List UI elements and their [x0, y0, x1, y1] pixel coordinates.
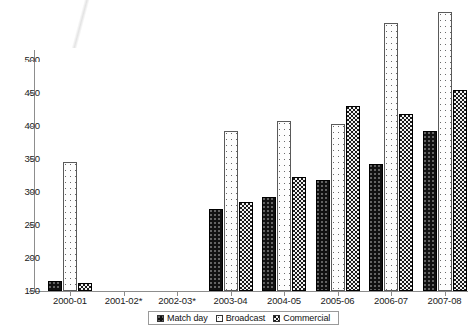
bar-chart: 150200250300350400450500 2000-012001-02*… [0, 0, 472, 332]
y-axis-tick-label: 300 [0, 187, 40, 197]
y-axis-tick-mark [29, 225, 34, 226]
bar-group [102, 0, 146, 291]
bar-group [209, 0, 253, 291]
legend-label-broadcast: Broadcast [226, 314, 266, 323]
legend-label-match-day: Match day [167, 314, 208, 323]
bar-group [262, 0, 306, 291]
x-axis-tick-label: 2005-06 [308, 296, 368, 306]
y-axis-tick-label: 400 [0, 121, 40, 131]
plot-area: 150200250300350400450500 2000-012001-02*… [34, 0, 468, 292]
x-axis-line [34, 291, 468, 292]
bar-group [423, 0, 467, 291]
y-axis-tick-label: 250 [0, 220, 40, 230]
x-axis-tick-label: 2000-01 [40, 296, 100, 306]
y-axis-tick-label: 350 [0, 154, 40, 164]
bar-match-day [209, 209, 223, 292]
bar-match-day [423, 131, 437, 291]
y-axis-tick-mark [29, 159, 34, 160]
x-axis-tick-label: 2001-02* [94, 296, 154, 306]
bar-commercial [453, 90, 467, 291]
legend-item-broadcast: Broadcast [216, 314, 266, 323]
bar-commercial [399, 114, 413, 291]
bar-broadcast [63, 162, 77, 291]
bar-group [316, 0, 360, 291]
y-axis-tick-label: 450 [0, 88, 40, 98]
bar-broadcast [277, 121, 291, 291]
y-axis-tick-mark [29, 192, 34, 193]
legend-swatch-broadcast-icon [216, 315, 223, 322]
bar-commercial [78, 283, 92, 291]
bar-group [48, 0, 92, 291]
bar-match-day [369, 164, 383, 291]
x-axis-tick-label: 2004-05 [254, 296, 314, 306]
x-axis-tick-label: 2006-07 [361, 296, 421, 306]
legend-item-match-day: Match day [157, 314, 208, 323]
x-axis-tick-label: 2002-03* [147, 296, 207, 306]
bar-commercial [292, 177, 306, 291]
y-axis-tick-label: 150 [0, 286, 40, 296]
y-axis-tick-label: 500 [0, 55, 40, 62]
bar-broadcast [384, 23, 398, 291]
y-axis-tick-mark [29, 258, 34, 259]
x-axis-tick-label: 2003-04 [201, 296, 261, 306]
bar-group [155, 0, 199, 291]
chart-legend: Match day Broadcast Commercial [148, 311, 339, 325]
bar-broadcast [224, 131, 238, 291]
y-axis-tick-mark [29, 60, 34, 61]
x-axis-tick-label: 2007-08 [415, 296, 472, 306]
bar-commercial [239, 202, 253, 291]
y-axis-tick-mark [29, 291, 34, 292]
bar-commercial [346, 106, 360, 291]
bar-group [369, 0, 413, 291]
legend-label-commercial: Commercial [283, 314, 330, 323]
y-axis-tick-mark [29, 93, 34, 94]
legend-swatch-match-day-icon [157, 315, 164, 322]
bar-match-day [48, 281, 62, 291]
bar-broadcast [331, 124, 345, 291]
legend-swatch-commercial-icon [273, 315, 280, 322]
bar-match-day [262, 197, 276, 291]
y-axis-tick-label: 200 [0, 253, 40, 263]
bar-broadcast [438, 12, 452, 291]
legend-item-commercial: Commercial [273, 314, 330, 323]
bar-match-day [316, 180, 330, 291]
y-axis-tick-mark [29, 126, 34, 127]
